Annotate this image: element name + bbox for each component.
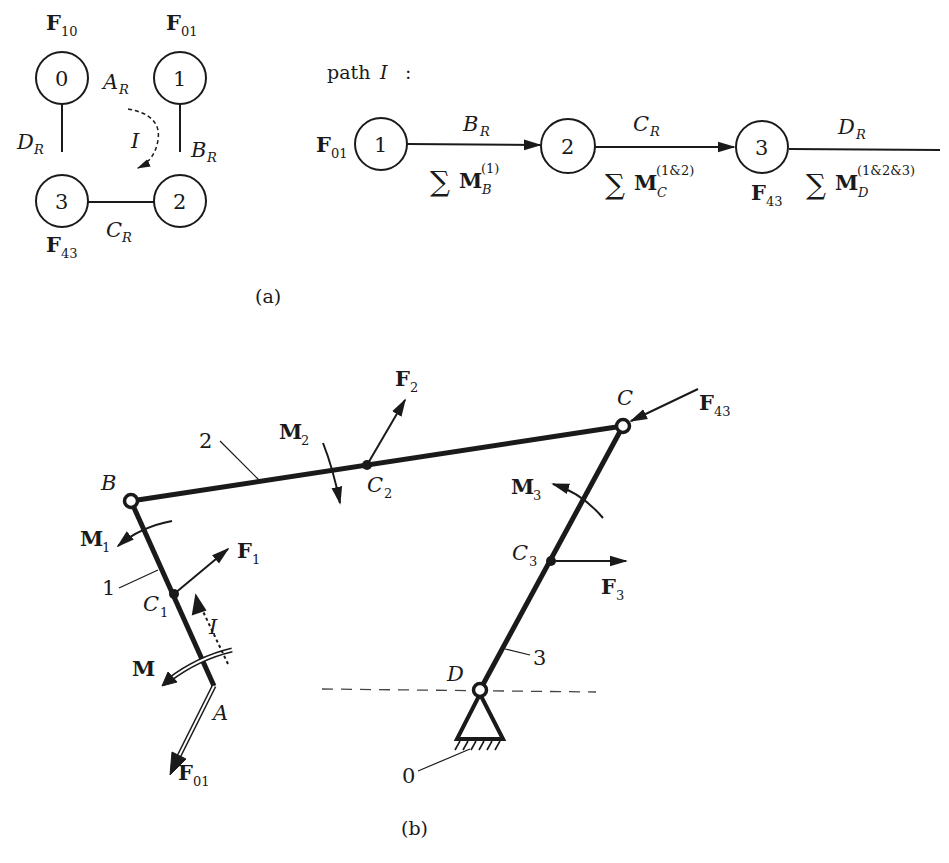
svg-text:1: 1 bbox=[102, 576, 115, 600]
svg-text:D: D bbox=[446, 662, 464, 686]
caption-b: (b) bbox=[401, 817, 428, 839]
svg-text:3: 3 bbox=[533, 646, 546, 670]
svg-text:3: 3 bbox=[616, 588, 624, 603]
svg-text:3: 3 bbox=[55, 190, 68, 214]
svg-text:D: D bbox=[16, 130, 34, 154]
svg-text:F: F bbox=[46, 232, 61, 257]
svg-text:F: F bbox=[316, 132, 331, 157]
moment-m-arrow-icon bbox=[162, 650, 232, 686]
svg-text:B: B bbox=[481, 182, 492, 197]
mechanism-labels: A B C D 2 1 3 0 C 1 C 2 C 3 F 1 F 2 F 3 … bbox=[80, 366, 731, 789]
svg-text:F: F bbox=[178, 760, 193, 785]
svg-text:43: 43 bbox=[714, 404, 731, 419]
svg-text:F: F bbox=[395, 366, 410, 391]
svg-text:2: 2 bbox=[173, 190, 186, 214]
svg-text:M: M bbox=[459, 168, 482, 193]
svg-text:A: A bbox=[211, 701, 228, 725]
svg-text:(1&2): (1&2) bbox=[656, 163, 694, 178]
svg-text:F: F bbox=[237, 538, 252, 563]
svg-text:01: 01 bbox=[331, 146, 348, 161]
svg-text:∑: ∑ bbox=[605, 168, 625, 201]
force-f43-arrow-icon bbox=[631, 389, 698, 421]
svg-text:(1&2&3): (1&2&3) bbox=[857, 163, 915, 178]
svg-text:R: R bbox=[206, 150, 217, 165]
ground-hatch bbox=[455, 741, 500, 750]
svg-text:C: C bbox=[367, 473, 383, 497]
force-f1-arrow-icon bbox=[174, 549, 228, 594]
svg-text:I: I bbox=[379, 61, 388, 83]
svg-text:3: 3 bbox=[529, 554, 537, 569]
svg-text:R: R bbox=[649, 124, 660, 139]
svg-text:D: D bbox=[837, 115, 855, 139]
svg-text:1: 1 bbox=[160, 605, 168, 620]
svg-text:R: R bbox=[33, 142, 44, 157]
svg-text:3: 3 bbox=[755, 136, 768, 160]
svg-text:2: 2 bbox=[301, 433, 309, 448]
svg-text:∑: ∑ bbox=[806, 168, 826, 201]
svg-text:I: I bbox=[208, 615, 218, 639]
svg-text:43: 43 bbox=[61, 246, 78, 261]
svg-text:B: B bbox=[100, 471, 116, 495]
svg-text:F: F bbox=[751, 180, 766, 205]
svg-text:R: R bbox=[121, 230, 132, 245]
svg-text:2: 2 bbox=[410, 380, 418, 395]
svg-text:C: C bbox=[657, 185, 667, 200]
svg-text:01: 01 bbox=[181, 24, 198, 39]
svg-text:R: R bbox=[855, 127, 866, 142]
svg-text:F: F bbox=[46, 10, 61, 35]
svg-text:2: 2 bbox=[384, 486, 392, 501]
svg-text:1: 1 bbox=[374, 133, 387, 157]
svg-text:C: C bbox=[143, 592, 159, 616]
svg-text:C: C bbox=[106, 218, 122, 242]
svg-text:F: F bbox=[601, 574, 616, 599]
svg-text:2: 2 bbox=[199, 429, 212, 453]
svg-text:∑: ∑ bbox=[430, 165, 450, 198]
svg-text:I: I bbox=[130, 129, 140, 153]
joint-b bbox=[125, 495, 138, 508]
svg-text:M: M bbox=[80, 526, 103, 551]
svg-text:1: 1 bbox=[102, 540, 110, 555]
svg-text::: : bbox=[405, 61, 411, 83]
path-labels: F 01 1 2 3 F 43 B R ∑ M B (1) C R ∑ M C … bbox=[316, 112, 915, 209]
svg-text:R: R bbox=[118, 82, 129, 97]
svg-text:10: 10 bbox=[61, 24, 78, 39]
svg-text:1: 1 bbox=[173, 67, 186, 91]
svg-text:1: 1 bbox=[252, 552, 260, 567]
svg-text:M: M bbox=[835, 170, 858, 195]
svg-text:M: M bbox=[634, 170, 657, 195]
svg-text:D: D bbox=[857, 185, 869, 200]
ground-support bbox=[457, 694, 503, 739]
joint-c bbox=[617, 420, 630, 433]
svg-text:path: path bbox=[327, 61, 370, 83]
svg-text:0: 0 bbox=[55, 67, 68, 91]
joint-d bbox=[474, 684, 487, 697]
svg-text:M: M bbox=[279, 419, 302, 444]
svg-text:C: C bbox=[617, 386, 633, 410]
svg-text:F: F bbox=[166, 10, 181, 35]
path-i-arrowhead-icon bbox=[193, 596, 205, 614]
svg-text:43: 43 bbox=[766, 194, 783, 209]
svg-text:C: C bbox=[633, 112, 649, 136]
caption-a: (a) bbox=[255, 285, 281, 307]
svg-text:2: 2 bbox=[561, 135, 574, 159]
svg-text:0: 0 bbox=[402, 764, 415, 788]
force-f2-arrow-icon bbox=[367, 400, 405, 465]
path-title: path I : bbox=[327, 61, 411, 83]
svg-text:F: F bbox=[699, 390, 714, 415]
svg-text:R: R bbox=[479, 124, 490, 139]
svg-text:3: 3 bbox=[533, 488, 541, 503]
svg-text:A: A bbox=[101, 70, 118, 94]
svg-text:C: C bbox=[512, 541, 528, 565]
svg-text:M: M bbox=[511, 474, 534, 499]
svg-text:M: M bbox=[132, 656, 155, 681]
svg-text:01: 01 bbox=[193, 774, 210, 789]
mechanism-figure: 0 1 2 3 F 10 F 01 F 43 A R B R C R D R I… bbox=[0, 0, 949, 863]
svg-text:B: B bbox=[190, 138, 206, 162]
svg-text:(1): (1) bbox=[481, 161, 499, 176]
svg-text:B: B bbox=[462, 112, 478, 136]
